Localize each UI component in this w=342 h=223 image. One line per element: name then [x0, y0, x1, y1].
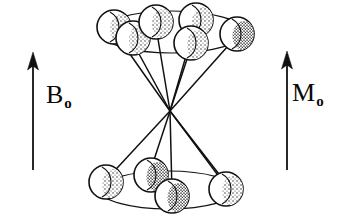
b0-field-arrow — [28, 52, 39, 170]
spin-sphere — [209, 172, 244, 206]
precession-diagram-svg — [0, 0, 342, 223]
spin-sphere — [89, 165, 124, 199]
m0-symbol: M — [292, 78, 315, 107]
b0-symbol: B — [46, 80, 63, 109]
lower-spin-spheres — [89, 158, 244, 213]
spin-sphere — [139, 5, 174, 39]
spin-sphere — [155, 179, 191, 213]
m0-subscript: o — [316, 93, 324, 109]
precession-figure: Bo Mo — [0, 0, 342, 223]
spin-sphere — [174, 26, 209, 60]
m0-magnetization-arrow — [282, 51, 293, 170]
b0-subscript: o — [64, 95, 72, 111]
m0-magnetization-label: Mo — [292, 80, 323, 106]
b0-field-label: Bo — [46, 82, 71, 108]
spin-sphere — [220, 17, 256, 51]
